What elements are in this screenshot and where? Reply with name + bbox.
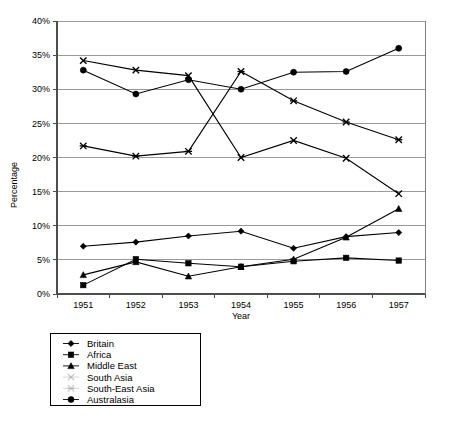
y-tick-label: 10%	[32, 221, 50, 231]
legend-label: Middle East	[87, 360, 137, 371]
x-tick-label: 1956	[336, 300, 356, 310]
x-tick-label: 1955	[284, 300, 304, 310]
y-tick-label: 5%	[37, 255, 50, 265]
y-tick-label: 25%	[32, 119, 50, 129]
x-tick-label: 1952	[126, 300, 146, 310]
y-axis-title: Percentage	[9, 162, 19, 208]
x-tick-label: 1954	[231, 300, 251, 310]
data-point-square	[343, 255, 348, 260]
y-tick-label: 20%	[32, 153, 50, 163]
legend-marker-circle-icon	[68, 397, 74, 403]
data-point-circle	[80, 67, 86, 73]
x-tick-label: 1951	[73, 300, 93, 310]
y-tick-label: 30%	[32, 84, 50, 94]
x-axis-title: Year	[232, 311, 250, 321]
data-point-circle	[396, 45, 402, 51]
data-point-circle	[133, 91, 139, 97]
chart-container: 0%5%10%15%20%25%30%35%40% 19511952195319…	[0, 0, 450, 433]
legend-label: Australasia	[87, 394, 135, 405]
legend-label: Britain	[87, 338, 114, 349]
legend-marker-square-icon	[68, 352, 73, 357]
data-point-circle	[185, 77, 191, 83]
x-tick-label: 1957	[389, 300, 409, 310]
legend-label: Africa	[87, 349, 112, 360]
y-tick-label: 0%	[37, 289, 50, 299]
data-point-circle	[343, 69, 349, 75]
data-point-circle	[238, 86, 244, 92]
legend-label: South-East Asia	[87, 383, 155, 394]
data-point-square	[81, 282, 86, 287]
y-tick-label: 15%	[32, 187, 50, 197]
data-point-circle	[291, 69, 297, 75]
x-tick-label: 1953	[178, 300, 198, 310]
chart-legend: BritainAfricaMiddle EastSouth AsiaSouth-…	[50, 333, 200, 405]
y-tick-label: 40%	[32, 16, 50, 26]
line-chart: 0%5%10%15%20%25%30%35%40% 19511952195319…	[0, 0, 450, 433]
data-point-square	[186, 261, 191, 266]
legend-label: South Asia	[87, 372, 133, 383]
data-point-square	[396, 258, 401, 263]
y-tick-label: 35%	[32, 50, 50, 60]
